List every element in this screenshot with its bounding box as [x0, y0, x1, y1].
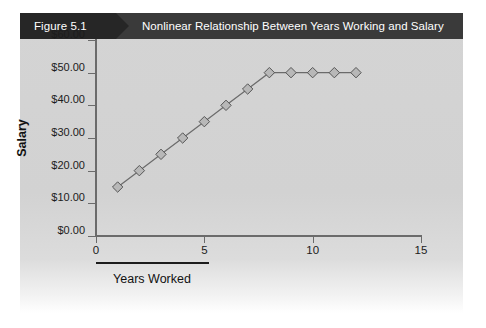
x-tick-label: 5	[201, 244, 207, 256]
tag-chevron-icon	[116, 13, 129, 39]
y-axis-title: Salary	[15, 119, 29, 157]
y-tick	[88, 105, 95, 106]
y-tick	[88, 73, 95, 74]
y-tick	[88, 40, 95, 41]
y-tick-label: $0.00	[0, 224, 85, 236]
x-axis-title: Years Worked	[113, 272, 191, 286]
y-tick	[88, 203, 95, 204]
y-tick-label: $40.00	[0, 93, 85, 105]
y-tick	[88, 171, 95, 172]
x-tick	[96, 237, 97, 243]
figure-title: Nonlinear Relationship Between Years Wor…	[142, 13, 444, 39]
x-tick	[204, 237, 205, 243]
x-tick	[313, 237, 314, 243]
x-tick	[421, 237, 422, 243]
y-tick-label: $30.00	[0, 126, 85, 138]
y-tick	[88, 236, 95, 237]
y-axis-line	[95, 39, 97, 236]
y-tick-label: $20.00	[0, 159, 85, 171]
x-axis-line	[95, 235, 422, 237]
y-tick	[88, 138, 95, 139]
y-tick-label: $60.00	[0, 28, 85, 40]
x-axis-title-underline	[96, 262, 209, 264]
y-tick-label: $10.00	[0, 191, 85, 203]
figure-container: Figure 5.1 Nonlinear Relationship Betwee…	[0, 0, 486, 328]
x-tick-label: 15	[415, 244, 428, 256]
figure-panel	[20, 13, 463, 313]
x-tick-label: 10	[306, 244, 319, 256]
figure-header: Figure 5.1 Nonlinear Relationship Betwee…	[20, 13, 463, 39]
y-tick-label: $50.00	[0, 61, 85, 73]
x-tick-label: 0	[93, 244, 99, 256]
